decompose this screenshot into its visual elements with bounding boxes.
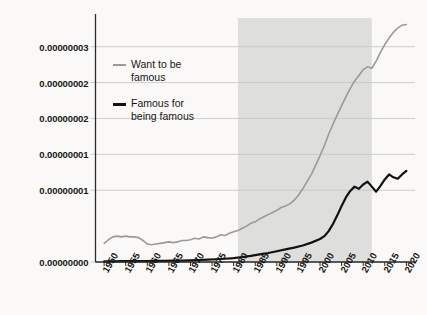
legend-color-swatch bbox=[113, 103, 126, 106]
chart-container: 0.000000030.000000020.000000020.00000001… bbox=[0, 0, 427, 315]
y-axis-tick-label: 0.00000002 bbox=[39, 113, 88, 124]
legend-item: Want to be famous bbox=[113, 58, 181, 83]
legend-color-swatch bbox=[113, 64, 126, 66]
y-axis-tick-label: 0.00000000 bbox=[39, 257, 88, 268]
legend-item: Famous for being famous bbox=[113, 97, 194, 122]
highlight-band bbox=[238, 18, 372, 262]
y-axis-tick-label: 0.00000002 bbox=[39, 77, 88, 88]
y-axis-tick-label: 0.00000001 bbox=[39, 185, 88, 196]
y-axis-tick-label: 0.00000001 bbox=[39, 149, 88, 160]
legend-label: Famous for being famous bbox=[131, 97, 194, 122]
legend-label: Want to be famous bbox=[131, 58, 181, 83]
y-axis-tick-label: 0.00000003 bbox=[39, 41, 88, 52]
